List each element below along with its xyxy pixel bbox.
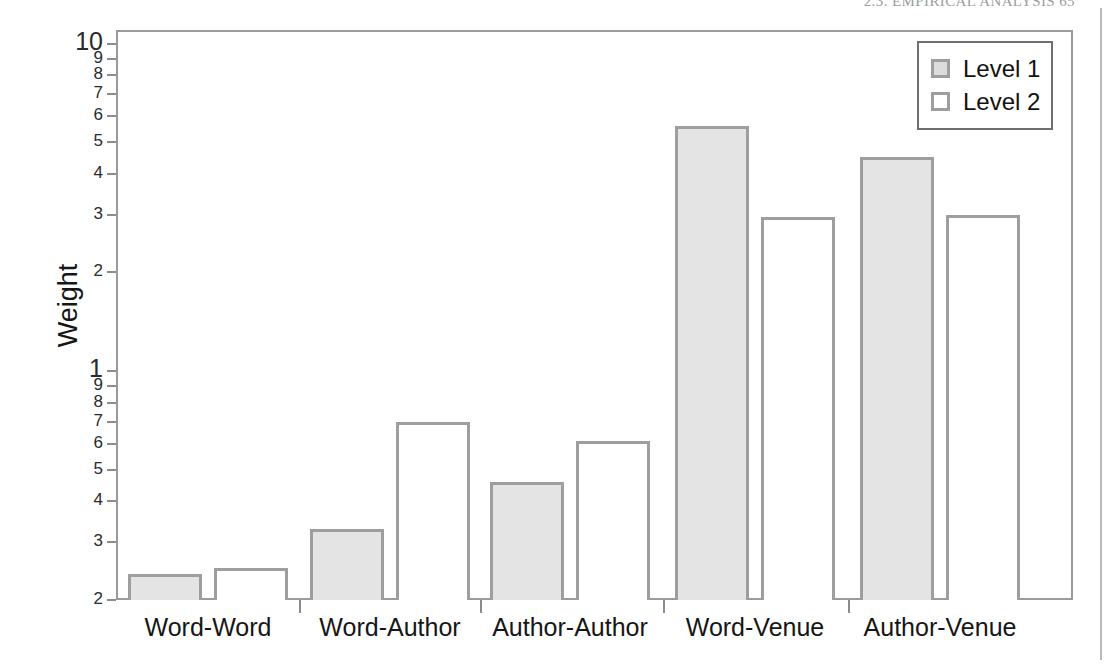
bar-chart-figure: Weight 1098765432198765432 Word-WordWord… (0, 0, 1113, 664)
y-tick-mark (107, 173, 116, 175)
y-tick-label: 3 (94, 531, 103, 550)
y-tick-label: 7 (94, 83, 103, 102)
x-axis-label-author-venue: Author-Venue (864, 613, 1017, 642)
y-tick-mark (107, 500, 116, 502)
y-tick-label: 6 (94, 105, 103, 124)
x-axis-label-word-word: Word-Word (145, 613, 272, 642)
y-tick-mark (107, 271, 116, 273)
legend-label-level-2: Level 2 (963, 88, 1040, 116)
y-tick-mark (107, 93, 116, 95)
x-tick-mark (848, 600, 850, 613)
bar-word-word-level-1[interactable] (128, 574, 202, 600)
legend-item-level-2[interactable]: Level 2 (931, 85, 1041, 118)
bar-word-author-level-1[interactable] (310, 529, 384, 600)
y-tick-label: 4 (94, 163, 103, 182)
x-axis-label-author-author: Author-Author (492, 613, 648, 642)
x-tick-mark (480, 600, 482, 613)
y-tick-mark (107, 402, 116, 404)
legend-item-level-1[interactable]: Level 1 (931, 52, 1041, 85)
y-tick-label: 8 (94, 392, 103, 411)
bar-author-author-level-1[interactable] (490, 482, 564, 600)
y-tick-label: 2 (94, 261, 103, 280)
y-tick-label: 8 (94, 64, 103, 83)
y-tick-label: 4 (94, 490, 103, 509)
y-tick-mark (107, 141, 116, 143)
y-tick-label: 7 (94, 411, 103, 430)
legend-swatch-level-1 (931, 59, 950, 78)
bar-word-venue-level-2[interactable] (761, 217, 835, 600)
x-axis-label-word-author: Word-Author (319, 613, 460, 642)
y-tick-label: 3 (94, 204, 103, 223)
x-axis-label-word-venue: Word-Venue (686, 613, 825, 642)
legend-swatch-level-2 (931, 92, 950, 111)
legend-label-level-1: Level 1 (963, 55, 1040, 83)
y-tick-mark (107, 541, 116, 543)
y-tick-label: 6 (94, 433, 103, 452)
y-tick-label: 5 (94, 459, 103, 478)
y-tick-mark (107, 599, 116, 601)
y-tick-mark (107, 214, 116, 216)
chart-legend: Level 1 Level 2 (917, 41, 1053, 130)
y-tick-label: 2 (94, 589, 103, 608)
x-tick-mark (299, 600, 301, 613)
x-tick-mark (663, 600, 665, 613)
y-tick-mark (107, 469, 116, 471)
y-tick-label: 5 (94, 131, 103, 150)
bar-word-author-level-2[interactable] (396, 422, 470, 600)
y-tick-mark (107, 370, 116, 372)
y-tick-mark (107, 443, 116, 445)
y-tick-mark (107, 74, 116, 76)
bar-author-venue-level-1[interactable] (860, 157, 934, 600)
y-tick-mark (107, 43, 116, 45)
bar-word-word-level-2[interactable] (214, 568, 288, 600)
bar-author-venue-level-2[interactable] (946, 215, 1020, 600)
bar-word-venue-level-1[interactable] (675, 126, 749, 600)
bar-author-author-level-2[interactable] (576, 441, 650, 600)
y-tick-mark (107, 421, 116, 423)
y-tick-mark (107, 115, 116, 117)
y-tick-mark (107, 58, 116, 60)
y-tick-mark (107, 385, 116, 387)
y-axis-title: Weight (53, 226, 84, 386)
